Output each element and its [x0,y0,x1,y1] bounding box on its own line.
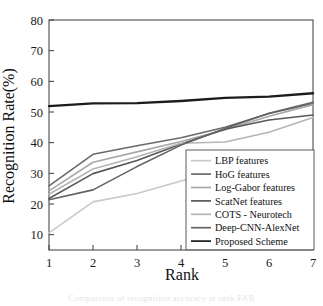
legend-item-label[interactable]: LBP features [215,155,268,166]
figure-container: 1020304050607080 1234567 LBP featuresHoG… [0,0,323,306]
y-tick-label: 80 [31,14,44,28]
x-tick-label: 2 [90,256,96,270]
y-tick-label: 60 [31,75,44,89]
legend-item-label[interactable]: HoG features [215,169,270,180]
y-tick-label: 30 [31,167,44,181]
y-tick-label: 20 [31,198,44,212]
y-axis-title: Recognition Rate(%) [0,68,18,204]
y-axis-ticks: 1020304050607080 [31,14,55,243]
legend-item-label[interactable]: Log-Gabor features [215,182,295,193]
x-tick-label: 1 [46,256,52,270]
y-tick-label: 70 [31,44,44,58]
legend-item-label[interactable]: ScatNet features [215,196,282,207]
x-axis-title: Rank [165,266,199,283]
legend-item-label[interactable]: COTS - Neurotech [215,209,292,220]
series-line [49,93,313,106]
chart-legend[interactable]: LBP featuresHoG featuresLog-Gabor featur… [186,150,314,250]
y-tick-label: 50 [31,106,44,120]
x-tick-label: 5 [222,256,228,270]
legend-item-label[interactable]: Deep-CNN-AlexNet [215,222,299,233]
legend-item-label[interactable]: Proposed Scheme [215,236,288,247]
figure-caption-partial: Comparison of recognition accuracy at ra… [0,290,323,306]
y-tick-label: 40 [31,136,44,150]
y-tick-label: 10 [31,228,44,242]
recognition-rate-line-chart: 1020304050607080 1234567 LBP featuresHoG… [0,0,323,306]
x-tick-label: 7 [310,256,316,270]
x-tick-label: 3 [134,256,140,270]
x-tick-label: 6 [266,256,272,270]
